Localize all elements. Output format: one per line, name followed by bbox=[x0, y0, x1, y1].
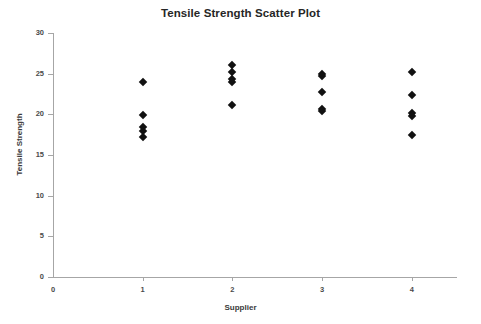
x-tick-mark bbox=[143, 277, 144, 281]
y-tick-label: 30 bbox=[14, 29, 44, 37]
y-tick-mark bbox=[48, 196, 53, 197]
x-tick-label: 0 bbox=[41, 285, 65, 294]
y-axis-label: Tensile Strength bbox=[15, 90, 24, 200]
y-tick-label: 25 bbox=[14, 70, 44, 78]
plot-area: 051015202530 01234 bbox=[0, 0, 481, 324]
y-tick-mark bbox=[48, 277, 53, 278]
y-axis-line bbox=[53, 33, 54, 277]
x-tick-label: 3 bbox=[310, 285, 334, 294]
x-tick-mark bbox=[232, 277, 233, 281]
data-point-marker bbox=[408, 68, 416, 76]
data-point-marker bbox=[138, 111, 146, 119]
x-axis-label: Supplier bbox=[0, 303, 481, 312]
data-point-marker bbox=[408, 91, 416, 99]
x-tick-label: 4 bbox=[400, 285, 424, 294]
y-tick-mark bbox=[48, 236, 53, 237]
data-point-marker bbox=[138, 133, 146, 141]
y-tick-mark bbox=[48, 33, 53, 34]
scatter-chart: Tensile Strength Scatter Plot 0510152025… bbox=[0, 0, 481, 324]
data-point-marker bbox=[318, 88, 326, 96]
data-point-marker bbox=[408, 131, 416, 139]
x-tick-mark bbox=[412, 277, 413, 281]
x-tick-label: 2 bbox=[220, 285, 244, 294]
x-tick-mark bbox=[322, 277, 323, 281]
y-tick-mark bbox=[48, 155, 53, 156]
y-tick-label: 5 bbox=[14, 232, 44, 240]
y-tick-mark bbox=[48, 74, 53, 75]
data-point-marker bbox=[138, 78, 146, 86]
y-tick-label: 0 bbox=[14, 273, 44, 281]
x-tick-label: 1 bbox=[131, 285, 155, 294]
data-point-marker bbox=[228, 100, 236, 108]
x-axis-line bbox=[53, 277, 457, 278]
y-tick-mark bbox=[48, 114, 53, 115]
